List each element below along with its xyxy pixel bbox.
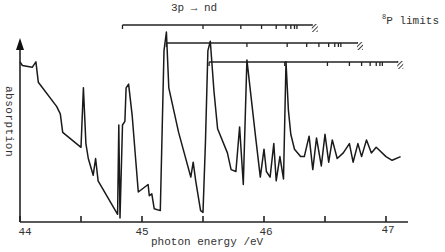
x-axis-ticks	[20, 216, 386, 222]
y-axis-label: absorption	[3, 86, 15, 157]
absorption-spectrum-chart	[0, 0, 445, 252]
limits-label: 8P limits	[382, 13, 439, 27]
series-limit-hatch	[357, 42, 363, 50]
x-tick-label-44: 44	[18, 226, 31, 238]
y-axis-arrow-icon	[16, 38, 24, 50]
x-tick-label-47: 47	[381, 224, 394, 236]
limits-text: P limits	[386, 15, 439, 27]
series-limit-hatch	[397, 61, 403, 69]
x-axis-label: photon energy /eV	[151, 236, 263, 248]
series-label: 3p → nd	[171, 2, 217, 14]
series-limit-hatch	[312, 24, 318, 32]
x-tick-label-45: 45	[135, 226, 148, 238]
spectrum-line	[20, 32, 401, 218]
